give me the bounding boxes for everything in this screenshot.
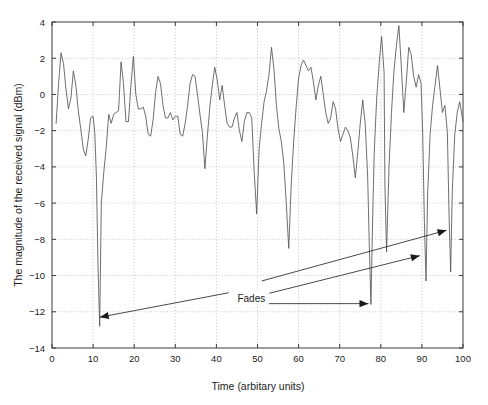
x-tick-label: 20 <box>129 353 140 364</box>
y-axis-title: The magnitude of the received signal (dB… <box>12 83 24 287</box>
y-tick-label: −8 <box>34 234 45 245</box>
x-tick-label: 10 <box>88 353 99 364</box>
y-tick-label: −4 <box>34 161 45 172</box>
y-tick-label: −12 <box>29 306 45 317</box>
x-tick-label: 100 <box>455 353 471 364</box>
x-tick-label: 60 <box>293 353 304 364</box>
y-tick-label: −6 <box>34 198 45 209</box>
x-tick-label: 50 <box>252 353 263 364</box>
x-tick-label: 70 <box>334 353 345 364</box>
y-tick-label: −10 <box>29 270 45 281</box>
y-tick-label: 0 <box>40 89 45 100</box>
x-tick-label: 80 <box>376 353 387 364</box>
signal-fading-chart: 0102030405060708090100420−2−4−6−8−10−12−… <box>0 0 488 405</box>
x-tick-label: 30 <box>170 353 181 364</box>
y-tick-label: 2 <box>40 53 45 64</box>
figure-container: 0102030405060708090100420−2−4−6−8−10−12−… <box>0 0 488 405</box>
y-tick-label: 4 <box>40 17 45 28</box>
x-tick-label: 0 <box>49 353 54 364</box>
x-tick-label: 90 <box>417 353 428 364</box>
fades-annotation-label: Fades <box>237 293 265 304</box>
y-tick-label: −2 <box>34 125 45 136</box>
chart-background <box>0 0 488 405</box>
x-axis-title: Time (arbitary units) <box>212 380 305 392</box>
x-tick-label: 40 <box>211 353 222 364</box>
y-tick-label: −14 <box>29 343 45 354</box>
